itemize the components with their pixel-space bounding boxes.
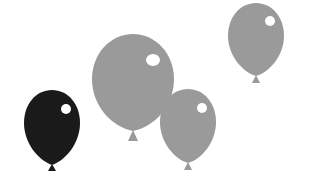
black-balloon <box>24 90 80 172</box>
balloon-icon <box>228 3 284 85</box>
balloon-icon <box>24 90 80 172</box>
small-gray-balloon <box>160 89 216 171</box>
balloons-scene <box>0 0 313 191</box>
balloon-icon <box>160 89 216 171</box>
top-right-gray-balloon <box>228 3 284 85</box>
